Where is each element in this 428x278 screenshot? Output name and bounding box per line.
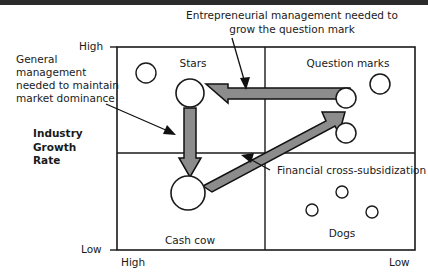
y-axis-title: Industry Growth Rate	[33, 127, 83, 168]
annotation-general-management-line3: needed to maintain	[16, 79, 119, 92]
annotation-entrepreneurial-line2: grow the question mark	[184, 23, 400, 36]
x-axis-label-high: High	[121, 256, 145, 269]
quadrant-label-stars: Stars	[158, 57, 228, 70]
annotation-general-management-line2: management	[16, 66, 86, 79]
annotation-financial-cross-subsidization: Financial cross-subsidization	[277, 164, 426, 177]
bubble-dog-1	[336, 186, 348, 198]
quadrant-label-dogs: Dogs	[315, 227, 369, 240]
quadrant-label-cash-cow: Cash cow	[155, 234, 225, 247]
matrix-frame	[117, 47, 415, 250]
annotation-entrepreneurial-line1: Entrepreneurial management needed to	[184, 9, 400, 22]
y-axis-label-low: Low	[81, 243, 102, 256]
annotation-general-management-line4: market dominance	[16, 92, 115, 105]
bubble-question-mark-1	[336, 88, 356, 108]
x-axis-label-low: Low	[389, 256, 410, 269]
y-axis-label-high: High	[79, 40, 103, 53]
bubble-star-small	[136, 63, 156, 83]
quadrant-label-question-marks: Question marks	[300, 57, 396, 70]
annotation-general-management-line1: General	[16, 53, 57, 66]
bubble-question-mark-3	[336, 123, 356, 143]
bubble-cash-cow	[171, 176, 205, 210]
bubble-dog-2	[306, 204, 318, 216]
bubble-star-large	[176, 79, 204, 107]
bubble-question-mark-2	[370, 74, 390, 94]
bubble-dog-3	[366, 206, 378, 218]
bcg-matrix-diagram: Entrepreneurial management needed to gro…	[0, 0, 428, 278]
